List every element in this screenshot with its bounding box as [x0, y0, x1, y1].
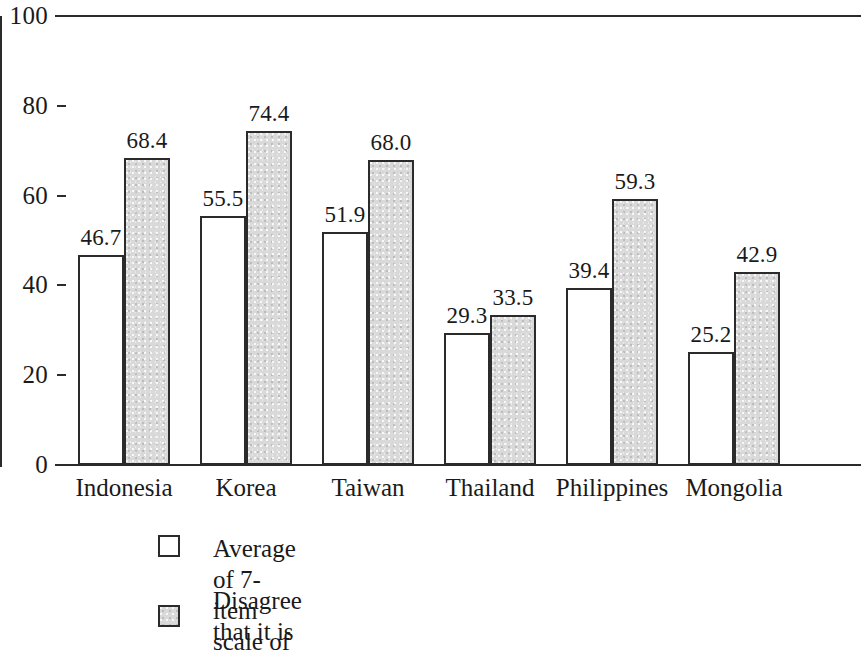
open-square-swatch-icon: [158, 535, 180, 557]
y-axis-tick-label: 0: [2, 452, 48, 477]
y-axis-tick-label: 80: [2, 93, 48, 118]
x-axis-category-label: Mongolia: [658, 474, 810, 502]
bar-value-label: 59.3: [600, 170, 670, 193]
bar: [566, 288, 612, 465]
bar: [322, 232, 368, 465]
bar: [734, 272, 780, 465]
bar-value-label: 25.2: [676, 323, 746, 346]
bar-value-label: 51.9: [310, 203, 380, 226]
bar: [490, 315, 536, 465]
bar-value-label: 68.4: [112, 129, 182, 152]
y-axis-tick-label: 20: [2, 362, 48, 387]
bar: [688, 352, 734, 465]
bar-value-label: 74.4: [234, 102, 304, 125]
bar: [246, 131, 292, 465]
y-axis-tick-label: 40: [2, 272, 48, 297]
y-axis-tick-label: 100: [2, 3, 48, 28]
bar-value-label: 46.7: [66, 226, 136, 249]
bar-value-label: 68.0: [356, 131, 426, 154]
gray-square-swatch-icon: [158, 605, 180, 627]
legend-item-label: Disagree that it is OK for government to…: [213, 585, 332, 650]
bar-value-label: 55.5: [188, 187, 258, 210]
bar: [612, 199, 658, 465]
bar-chart: 020406080100 46.768.455.574.451.968.029.…: [0, 0, 861, 650]
y-axis-line: [0, 16, 2, 467]
chart-legend: Average of 7-item scale of liberal value…: [0, 519, 861, 650]
y-axis-tick-label: 60: [2, 183, 48, 208]
plot-area: 46.768.455.574.451.968.029.333.539.459.3…: [55, 16, 861, 465]
bar-value-label: 39.4: [554, 259, 624, 282]
bar: [200, 216, 246, 465]
bar: [78, 255, 124, 465]
bar: [444, 333, 490, 465]
bar-value-label: 42.9: [722, 243, 792, 266]
bar-value-label: 33.5: [478, 286, 548, 309]
bar: [124, 158, 170, 465]
